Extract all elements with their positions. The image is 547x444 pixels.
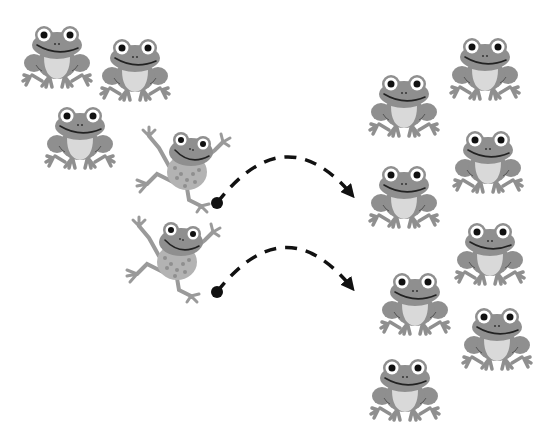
- frog-jump-illustration: [0, 0, 547, 444]
